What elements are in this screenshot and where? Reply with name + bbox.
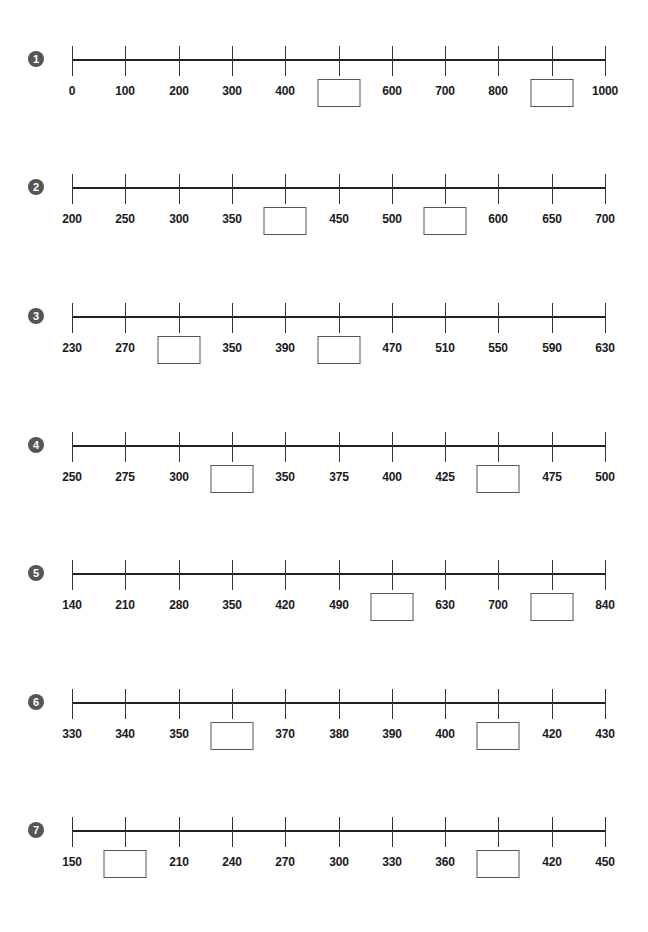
tick-label: 1000 [592, 84, 618, 98]
tick-mark [339, 174, 340, 204]
tick-label: 500 [595, 470, 614, 484]
tick-mark [552, 432, 553, 462]
tick-mark [498, 174, 499, 204]
tick-mark [605, 560, 606, 590]
tick-mark [72, 46, 73, 76]
tick-mark [285, 817, 286, 847]
number-line-problem: 3230270350390470510550590630 [0, 308, 648, 388]
answer-box[interactable] [477, 850, 520, 878]
tick-mark [498, 560, 499, 590]
tick-label: 275 [115, 470, 134, 484]
tick-label: 840 [595, 598, 614, 612]
tick-label: 600 [382, 84, 401, 98]
tick-label: 400 [275, 84, 294, 98]
tick-mark [445, 432, 446, 462]
tick-mark [605, 303, 606, 333]
tick-mark [339, 560, 340, 590]
tick-label: 380 [329, 727, 348, 741]
answer-box[interactable] [371, 593, 414, 621]
tick-mark [392, 303, 393, 333]
tick-label: 400 [435, 727, 454, 741]
tick-label: 360 [435, 855, 454, 869]
tick-label: 370 [275, 727, 294, 741]
tick-label: 270 [115, 341, 134, 355]
tick-mark [125, 560, 126, 590]
number-line-problem: 2200250300350450500600650700 [0, 179, 648, 259]
answer-box[interactable] [531, 593, 574, 621]
tick-mark [125, 689, 126, 719]
tick-label: 800 [488, 84, 507, 98]
tick-label: 330 [382, 855, 401, 869]
tick-label: 450 [329, 212, 348, 226]
problem-number-badge: 1 [28, 51, 44, 67]
tick-mark [392, 560, 393, 590]
tick-label: 250 [62, 470, 81, 484]
tick-label: 350 [222, 212, 241, 226]
number-line-problem: 7150210240270300330360420450 [0, 822, 648, 902]
tick-label: 300 [169, 470, 188, 484]
tick-mark [179, 689, 180, 719]
tick-label: 420 [542, 855, 561, 869]
tick-mark [285, 303, 286, 333]
tick-label: 270 [275, 855, 294, 869]
tick-label: 450 [595, 855, 614, 869]
tick-mark [179, 46, 180, 76]
tick-mark [179, 174, 180, 204]
tick-mark [392, 174, 393, 204]
tick-mark [125, 303, 126, 333]
tick-label: 650 [542, 212, 561, 226]
tick-label: 300 [329, 855, 348, 869]
answer-box[interactable] [424, 207, 467, 235]
answer-box[interactable] [104, 850, 147, 878]
problem-number-badge: 4 [28, 437, 44, 453]
tick-label: 700 [435, 84, 454, 98]
tick-mark [445, 689, 446, 719]
tick-mark [285, 560, 286, 590]
tick-label: 100 [115, 84, 134, 98]
tick-label: 490 [329, 598, 348, 612]
tick-label: 590 [542, 341, 561, 355]
tick-mark [232, 689, 233, 719]
tick-label: 390 [275, 341, 294, 355]
tick-mark [72, 560, 73, 590]
tick-mark [552, 817, 553, 847]
tick-label: 400 [382, 470, 401, 484]
number-line-problem: 101002003004006007008001000 [0, 51, 648, 131]
problem-number-badge: 5 [28, 565, 44, 581]
tick-label: 250 [115, 212, 134, 226]
tick-mark [392, 817, 393, 847]
tick-mark [445, 46, 446, 76]
tick-mark [605, 817, 606, 847]
number-line-worksheet: 1010020030040060070080010002200250300350… [0, 0, 648, 932]
tick-label: 330 [62, 727, 81, 741]
problem-number-badge: 2 [28, 179, 44, 195]
tick-mark [179, 432, 180, 462]
tick-label: 300 [222, 84, 241, 98]
tick-mark [72, 174, 73, 204]
tick-mark [552, 303, 553, 333]
answer-box[interactable] [158, 336, 201, 364]
tick-mark [232, 560, 233, 590]
tick-mark [285, 689, 286, 719]
tick-mark [392, 46, 393, 76]
tick-label: 200 [169, 84, 188, 98]
tick-label: 210 [115, 598, 134, 612]
tick-label: 350 [169, 727, 188, 741]
answer-box[interactable] [264, 207, 307, 235]
tick-label: 420 [542, 727, 561, 741]
answer-box[interactable] [211, 465, 254, 493]
tick-mark [552, 560, 553, 590]
tick-mark [285, 174, 286, 204]
answer-box[interactable] [318, 79, 361, 107]
tick-label: 340 [115, 727, 134, 741]
answer-box[interactable] [211, 722, 254, 750]
answer-box[interactable] [477, 722, 520, 750]
tick-label: 390 [382, 727, 401, 741]
problem-number-badge: 6 [28, 694, 44, 710]
tick-label: 240 [222, 855, 241, 869]
answer-box[interactable] [477, 465, 520, 493]
answer-box[interactable] [318, 336, 361, 364]
tick-label: 150 [62, 855, 81, 869]
tick-mark [552, 174, 553, 204]
answer-box[interactable] [531, 79, 574, 107]
